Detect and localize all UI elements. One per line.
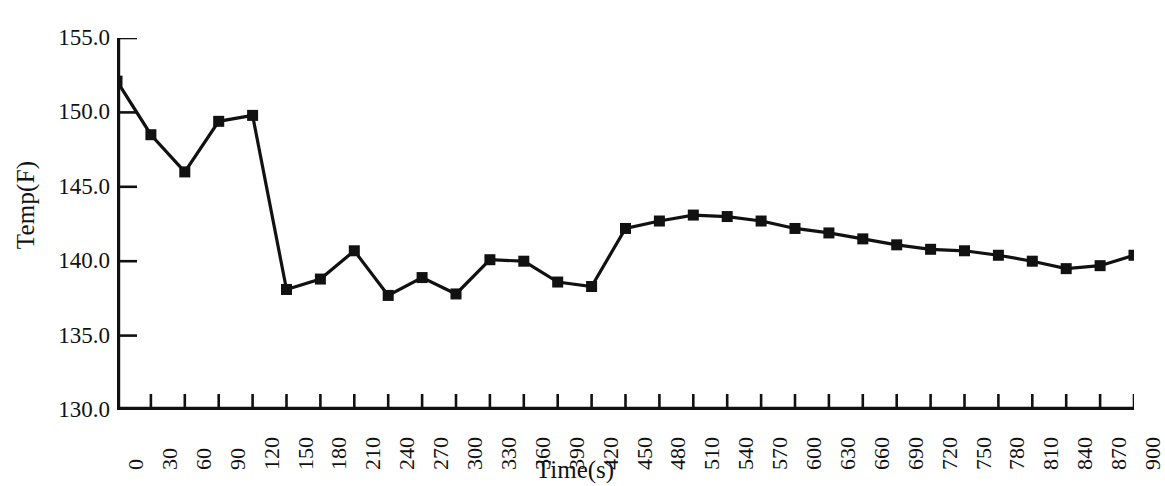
plot-svg xyxy=(117,38,1134,410)
y-axis-tick-label: 130.0 xyxy=(24,398,110,421)
data-point-marker xyxy=(145,129,156,140)
data-point-marker xyxy=(925,244,936,255)
data-point-marker xyxy=(213,116,224,127)
data-point-marker xyxy=(891,239,902,250)
data-point-marker xyxy=(688,210,699,221)
data-point-marker xyxy=(484,254,495,265)
data-point-marker xyxy=(1095,260,1106,271)
y-axis-tick-labels: 155.0150.0145.0140.0135.0130.0 xyxy=(18,0,110,486)
data-point-marker xyxy=(1061,263,1072,274)
y-axis-tick-label: 150.0 xyxy=(24,100,110,123)
data-point-marker xyxy=(620,223,631,234)
data-point-marker xyxy=(993,250,1004,261)
data-point-marker xyxy=(790,223,801,234)
data-point-marker xyxy=(959,245,970,256)
data-point-marker xyxy=(315,274,326,285)
data-point-markers xyxy=(117,76,1134,301)
y-axis-tick-label: 155.0 xyxy=(24,26,110,49)
data-point-marker xyxy=(722,211,733,222)
data-point-marker xyxy=(1027,256,1038,267)
data-point-marker xyxy=(417,272,428,283)
data-point-marker xyxy=(552,277,563,288)
data-point-marker xyxy=(451,288,462,299)
data-point-marker xyxy=(586,281,597,292)
data-point-marker xyxy=(1129,250,1135,261)
y-axis-tick-label: 135.0 xyxy=(24,324,110,347)
y-axis-tick-label: 145.0 xyxy=(24,175,110,198)
data-point-marker xyxy=(117,76,123,87)
plot-area xyxy=(117,38,1134,410)
data-point-marker xyxy=(654,216,665,227)
y-axis-ticks xyxy=(119,38,137,410)
data-point-marker xyxy=(349,245,360,256)
data-point-marker xyxy=(247,110,258,121)
data-point-marker xyxy=(823,227,834,238)
data-point-marker xyxy=(383,290,394,301)
data-point-marker xyxy=(756,216,767,227)
x-axis-title: Time(s) xyxy=(0,456,1150,484)
data-point-marker xyxy=(518,256,529,267)
data-point-marker xyxy=(179,166,190,177)
data-line-series-temp xyxy=(117,81,1134,295)
data-point-marker xyxy=(857,233,868,244)
data-point-marker xyxy=(281,284,292,295)
y-axis-tick-label: 140.0 xyxy=(24,249,110,272)
